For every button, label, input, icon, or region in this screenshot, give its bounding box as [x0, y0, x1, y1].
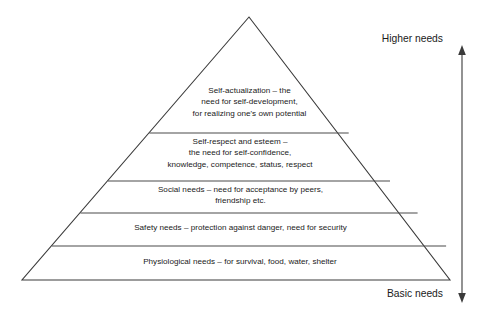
tier-label-safety-needs: Safety needs – protection against danger… [62, 222, 419, 233]
arrow-head-up-icon [458, 45, 466, 55]
tier-label-self-actualization: Self-actualization – the need for self-d… [141, 85, 358, 119]
tier-label-physiological-needs: Physiological needs – for survival, food… [45, 256, 435, 267]
tier-label-social-needs: Social needs – need for acceptance by pe… [103, 184, 378, 207]
maslow-pyramid-diagram: Self-actualization – the need for self-d… [0, 0, 481, 329]
axis-label-basic-needs: Basic needs [387, 288, 443, 300]
arrow-head-down-icon [458, 293, 466, 303]
axis-label-higher-needs: Higher needs [382, 33, 443, 45]
tier-label-self-respect-and-esteem: Self-respect and esteem – the need for s… [120, 136, 360, 170]
